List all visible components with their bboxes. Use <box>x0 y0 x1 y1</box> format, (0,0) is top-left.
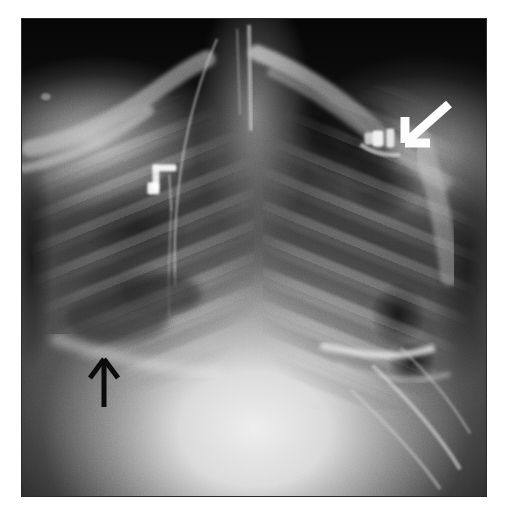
page-root <box>0 0 515 513</box>
chest-radiograph-image <box>21 18 487 497</box>
film-grain-layer <box>22 19 486 496</box>
